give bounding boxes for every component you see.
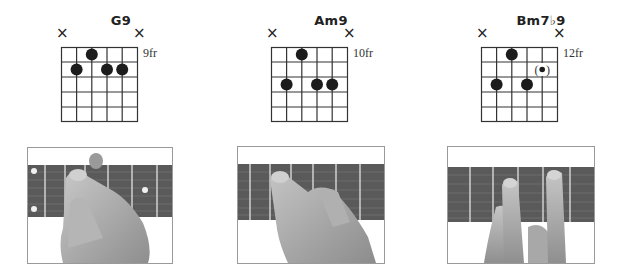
mute-x-icon: ×: [56, 26, 69, 41]
chord-photo-bm7b9: [447, 146, 595, 264]
finger-dot: [506, 49, 518, 61]
mute-x-icon: ×: [476, 26, 489, 41]
fretboard-grid: [61, 47, 138, 122]
finger-dot: [311, 79, 323, 91]
finger-dot: [86, 49, 98, 61]
chord-photo-am9: [237, 146, 385, 264]
finger-dot: [326, 79, 338, 91]
chord-photo-g9: [27, 147, 173, 264]
finger-dot: [71, 64, 83, 76]
mute-x-icon: ×: [133, 26, 146, 41]
mute-x-icon: ×: [266, 26, 279, 41]
optional-finger-dot: [539, 67, 545, 73]
chord-name: G9: [56, 13, 186, 28]
fretboard-grid: [271, 47, 348, 122]
fret-position-label: 12fr: [563, 46, 583, 61]
finger-dot: [101, 64, 113, 76]
fret-position-label: 9fr: [143, 46, 157, 61]
optional-paren-open-icon: (: [535, 63, 539, 77]
chord-name: Bm7♭9: [476, 13, 606, 28]
optional-paren-close-icon: ): [546, 63, 550, 77]
mute-x-icon: ×: [343, 26, 356, 41]
finger-dot: [116, 64, 128, 76]
chord-name: Am9: [266, 13, 396, 28]
fret-position-label: 10fr: [353, 46, 373, 61]
finger-dot: [281, 79, 293, 91]
finger-dot: [521, 79, 533, 91]
finger-dot: [491, 79, 503, 91]
fretboard-grid: ( ): [481, 47, 558, 122]
mute-x-icon: ×: [553, 26, 566, 41]
finger-dot: [296, 49, 308, 61]
